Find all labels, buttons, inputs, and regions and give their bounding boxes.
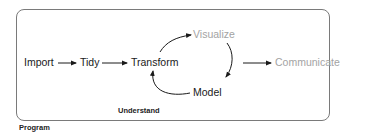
group-label-program: Program — [19, 124, 50, 132]
workflow-arrows — [0, 0, 366, 139]
node-import: Import — [24, 57, 54, 68]
arrow-transform-visualize — [160, 35, 191, 52]
arrow-visualize-model — [226, 43, 232, 77]
node-communicate: Communicate — [275, 57, 340, 68]
node-model: Model — [193, 87, 222, 98]
node-transform: Transform — [131, 57, 178, 68]
arrow-model-transform — [153, 71, 190, 94]
node-tidy: Tidy — [80, 57, 99, 68]
group-label-understand: Understand — [118, 107, 160, 115]
node-visualize: Visualize — [193, 29, 235, 40]
